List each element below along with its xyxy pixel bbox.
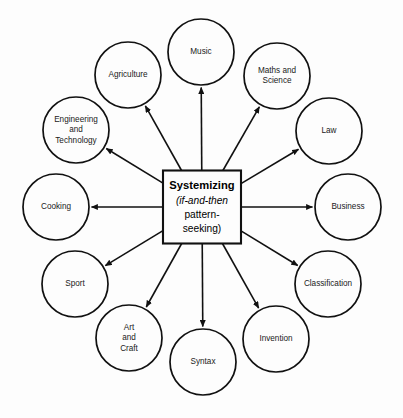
node-agriculture[interactable]: Agriculture [95, 42, 161, 108]
node-art-and-craft[interactable]: ArtandCraft [96, 305, 162, 371]
node-music[interactable]: Music [168, 19, 234, 85]
node-label-engineering-and-technology: Engineering [54, 115, 98, 124]
node-maths-and-science[interactable]: Maths andScience [244, 43, 310, 109]
node-law[interactable]: Law [296, 98, 362, 164]
node-label-sport: Sport [65, 279, 85, 288]
connector-arrow-music [201, 88, 202, 171]
node-label-maths-and-science: Maths and [258, 66, 297, 75]
node-label-art-and-craft: Craft [120, 344, 138, 353]
node-label-art-and-craft: Art [124, 323, 135, 332]
node-label-invention: Invention [259, 334, 293, 343]
connector-arrow-syntax [202, 244, 203, 327]
node-business[interactable]: Business [315, 174, 381, 240]
node-label-syntax: Syntax [190, 357, 215, 366]
node-classification[interactable]: Classification [295, 251, 361, 317]
node-label-art-and-craft: and [122, 333, 136, 342]
node-invention[interactable]: Invention [243, 306, 309, 372]
node-sport[interactable]: Sport [42, 251, 108, 317]
connector-arrow-law [241, 149, 299, 183]
node-syntax[interactable]: Syntax [170, 329, 236, 395]
node-label-classification: Classification [304, 279, 353, 288]
center-subtitle-line2: pattern- [184, 209, 219, 220]
connector-arrow-engineering-and-technology [106, 149, 163, 184]
connector-arrow-art-and-craft [146, 244, 181, 307]
node-label-agriculture: Agriculture [108, 70, 148, 79]
connector-arrow-invention [222, 244, 258, 309]
node-label-maths-and-science: Science [262, 76, 292, 85]
diagram-canvas: MusicMaths andScienceLawBusinessClassifi… [0, 0, 403, 418]
node-label-engineering-and-technology: Technology [55, 136, 97, 145]
center-title: Systemizing [169, 179, 234, 191]
systemizing-diagram: MusicMaths andScienceLawBusinessClassifi… [0, 0, 403, 418]
center-box-group: Systemizing(if-and-thenpattern-seeking) [163, 171, 241, 244]
node-label-business: Business [331, 202, 364, 211]
node-engineering-and-technology[interactable]: EngineeringandTechnology [43, 97, 109, 163]
node-label-law: Law [321, 126, 336, 135]
connector-arrow-agriculture [145, 106, 181, 171]
center-subtitle-line3: seeking) [183, 223, 222, 234]
node-cooking[interactable]: Cooking [23, 174, 89, 240]
connector-arrow-maths-and-science [223, 107, 259, 171]
connector-arrow-classification [241, 231, 298, 266]
connector-arrow-sport [105, 231, 163, 266]
node-label-cooking: Cooking [41, 202, 71, 211]
node-label-engineering-and-technology: and [69, 125, 83, 134]
center-subtitle-line1: (if-and-then [176, 195, 228, 206]
node-label-music: Music [190, 47, 211, 56]
